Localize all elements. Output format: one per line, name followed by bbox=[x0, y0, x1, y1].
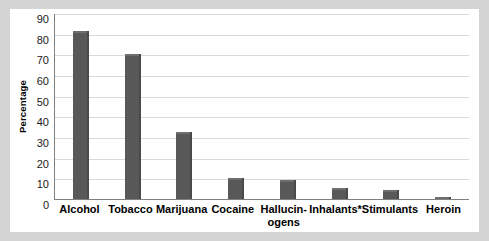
bar-slot bbox=[159, 14, 211, 199]
x-axis-category-label-line: Tobacco bbox=[108, 203, 152, 215]
bar bbox=[125, 54, 141, 199]
x-axis-category-label-line: Inhalants* bbox=[309, 203, 362, 215]
plot-area bbox=[54, 14, 469, 200]
x-axis-category-label: Tobacco bbox=[105, 203, 156, 228]
x-axis-category-label: Hallucin-ogens bbox=[258, 203, 309, 228]
bar bbox=[332, 188, 348, 199]
x-axis-category-label-line: Cocaine bbox=[211, 203, 254, 215]
x-axis-category-label: Stimulants bbox=[362, 203, 418, 228]
x-axis-category-label: Alcohol bbox=[54, 203, 105, 228]
bar-slot bbox=[262, 14, 314, 199]
bar bbox=[280, 180, 296, 199]
x-axis-category-label: Inhalants* bbox=[309, 203, 362, 228]
bar bbox=[176, 132, 192, 199]
bar-slot bbox=[366, 14, 418, 199]
y-axis-title-text: Percentage bbox=[18, 80, 29, 133]
bar-slot bbox=[210, 14, 262, 199]
chart-figure: Percentage 9080706050403020100 AlcoholTo… bbox=[10, 9, 479, 232]
y-axis-tick-label: 60 bbox=[37, 75, 49, 87]
y-axis-tick-label: 30 bbox=[37, 137, 49, 149]
x-axis-category-label-line: Alcohol bbox=[59, 203, 99, 215]
bar-slot bbox=[417, 14, 469, 199]
bar-slot bbox=[107, 14, 159, 199]
bar-slot bbox=[314, 14, 366, 199]
y-axis-tick-label: 80 bbox=[37, 34, 49, 46]
x-axis-category-label-line: Stimulants bbox=[362, 203, 418, 215]
y-axis-tick-label: 10 bbox=[37, 178, 49, 190]
y-axis-tick-label: 0 bbox=[43, 199, 49, 211]
x-axis-category-labels: AlcoholTobaccoMarijuanaCocaineHallucin-o… bbox=[54, 203, 469, 228]
bar-series bbox=[55, 14, 469, 199]
bar bbox=[228, 178, 244, 199]
x-axis-category-label: Cocaine bbox=[207, 203, 258, 228]
y-axis-tick-label: 70 bbox=[37, 54, 49, 66]
y-axis-tick-label: 90 bbox=[37, 13, 49, 25]
y-axis-tick-label: 40 bbox=[37, 116, 49, 128]
x-axis-category-label: Marijuana bbox=[156, 203, 207, 228]
y-axis-tick-label: 20 bbox=[37, 158, 49, 170]
bar bbox=[383, 190, 399, 199]
bar bbox=[435, 197, 451, 199]
bar-slot bbox=[55, 14, 107, 199]
x-axis-category-label-line: Heroin bbox=[426, 203, 461, 215]
x-axis-category-label-line: Marijuana bbox=[156, 203, 207, 215]
y-axis-tick-labels: 9080706050403020100 bbox=[28, 14, 52, 200]
bar bbox=[73, 31, 89, 199]
x-axis-category-label-line: Hallucin- bbox=[261, 203, 307, 215]
x-axis-category-label-line: ogens bbox=[258, 216, 309, 229]
x-axis-category-label: Heroin bbox=[418, 203, 469, 228]
y-axis-tick-label: 50 bbox=[37, 96, 49, 108]
